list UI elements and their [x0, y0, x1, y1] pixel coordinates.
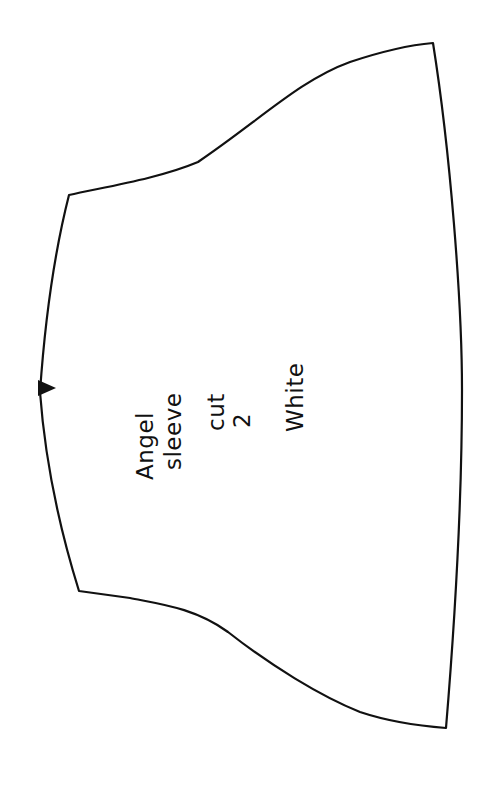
pattern-outline-path — [40, 43, 462, 728]
label-quantity: 2 — [229, 413, 255, 428]
label-cut: cut — [203, 393, 229, 431]
label-sleeve: sleeve — [160, 393, 186, 470]
label-angel: Angel — [132, 412, 158, 480]
label-color: White — [282, 363, 308, 432]
notch-triangle-icon — [38, 380, 56, 396]
sleeve-pattern-outline — [0, 0, 494, 797]
